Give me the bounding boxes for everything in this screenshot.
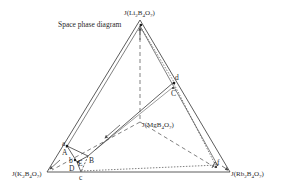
inner-triangle — [66, 26, 218, 166]
vertex-label-k2b4o7: J(K2B4O7) — [12, 170, 42, 179]
diagram-title: Space phase diagram — [58, 20, 121, 29]
dashed-lines — [52, 24, 216, 170]
point-label-a: a — [62, 139, 66, 148]
phase-points — [66, 24, 217, 168]
point-label-D: D — [69, 164, 75, 173]
point-label-d: d — [175, 73, 179, 82]
arrows — [50, 28, 228, 170]
vertex-label-mgb4o7: J(MgB4O7) — [142, 121, 175, 130]
point-label-c: c — [79, 173, 83, 182]
vertex-label-rb2b4o7: J(Rb2B4O7) — [231, 170, 264, 179]
vertex-label-li2b4o7: J(Li2B4O7) — [124, 9, 156, 18]
point-label-C: C — [171, 89, 176, 98]
point-label-B: B — [89, 156, 94, 165]
point-label-f: f — [217, 158, 220, 167]
point-label-A: A — [62, 148, 68, 157]
point-label-E: E — [78, 159, 83, 168]
phase-diagram: Space phase diagram J(Li2B4O7) J(K2B4O7)… — [0, 0, 283, 193]
dotted-lines — [81, 26, 218, 171]
